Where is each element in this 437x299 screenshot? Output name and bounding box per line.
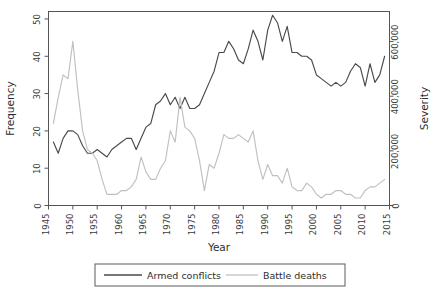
x-tick-label: 2005 — [333, 214, 343, 236]
x-tick-label: 1975 — [187, 214, 197, 236]
y-tick-label-right: 400,000 — [391, 79, 401, 114]
x-tick-label: 1945 — [41, 214, 51, 236]
x-axis-title: Year — [207, 241, 231, 253]
x-tick-label: 1950 — [65, 214, 75, 236]
x-axis: 1945195019551960196519701975198019851990… — [41, 206, 392, 236]
y-tick-label-left: 30 — [33, 89, 43, 100]
y-tick-label-right: 200,000 — [391, 134, 401, 169]
y-tick-label-left: 50 — [33, 14, 43, 25]
y-tick-label-right: 600,000 — [391, 24, 401, 59]
y-axis-right: 0200,000400,000600,000 — [390, 24, 401, 208]
x-tick-label: 2015 — [382, 214, 392, 236]
x-tick-label: 1965 — [138, 214, 148, 236]
y-axis-title-right: Severity — [418, 87, 430, 130]
x-tick-label: 1990 — [260, 214, 270, 236]
y-axis-title-left: Frequency — [4, 81, 16, 135]
x-tick-label: 1980 — [211, 214, 221, 236]
y-tick-label-right: 0 — [391, 203, 401, 208]
x-tick-label: 2010 — [357, 214, 367, 236]
x-tick-label: 1995 — [284, 214, 294, 236]
x-tick-label: 1985 — [235, 214, 245, 236]
y-tick-label-left: 10 — [33, 163, 43, 174]
y-tick-label-left: 40 — [33, 51, 43, 62]
plot-frame — [49, 12, 390, 206]
y-tick-label-left: 20 — [33, 126, 43, 137]
chart-svg: 01020304050Frequency0200,000400,000600,0… — [0, 0, 437, 299]
y-axis-left: 01020304050 — [33, 14, 49, 209]
legend-label-armed-conflicts: Armed conflicts — [147, 270, 221, 281]
y-tick-label-left: 0 — [33, 203, 43, 208]
x-tick-label: 1960 — [114, 214, 124, 236]
x-tick-label: 1955 — [89, 214, 99, 236]
legend-label-battle-deaths: Battle deaths — [263, 270, 327, 281]
x-tick-label: 1970 — [162, 214, 172, 236]
chart-figure: 01020304050Frequency0200,000400,000600,0… — [0, 0, 437, 299]
x-tick-label: 2000 — [308, 214, 318, 236]
